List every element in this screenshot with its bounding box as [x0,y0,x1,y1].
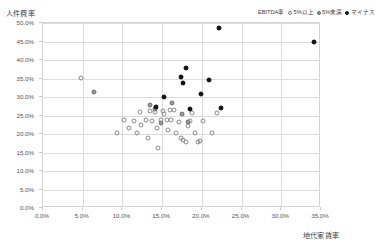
gridline-horizontal [43,97,319,98]
y-axis-tick-mark [39,133,42,134]
data-point [92,90,97,95]
data-point [78,75,83,80]
x-axis-tick-mark [320,207,321,210]
data-point [174,131,179,136]
gridline-horizontal [43,60,319,61]
data-point [218,105,223,110]
data-point [153,105,158,110]
data-point [162,111,167,116]
data-point [183,66,188,71]
gridline-vertical [242,23,243,206]
data-point [155,146,160,151]
y-axis-tick-label: 25.0% [0,111,38,118]
x-axis-tick-label: 35.0% [300,212,340,219]
data-point [170,101,175,106]
x-axis-title: 地代家賃率 [303,230,339,240]
gridline-horizontal [43,190,319,191]
x-axis-tick-label: 5.0% [62,212,102,219]
y-axis-tick-mark [39,41,42,42]
gridline-horizontal [43,42,319,43]
gridline-vertical [122,23,123,206]
legend-title: EBITDA率 [258,10,284,16]
data-point [183,139,188,144]
data-point [126,125,131,130]
gridline-vertical [202,23,203,206]
x-axis-tick-label: 10.0% [101,212,141,219]
data-point [198,139,203,144]
data-point [214,110,219,115]
data-point [159,120,164,125]
data-point [179,75,184,80]
data-point [206,78,211,83]
data-point [311,39,316,44]
data-point [144,117,149,122]
data-point [217,25,222,30]
y-axis-tick-label: 0.0% [0,204,38,211]
y-axis-tick-label: 20.0% [0,130,38,137]
data-point [148,102,153,107]
y-axis-tick-mark [39,96,42,97]
y-axis-tick-mark [39,115,42,116]
data-point [193,131,198,136]
y-axis-tick-label: 50.0% [0,19,38,26]
y-axis-tick-mark [39,22,42,23]
data-point [201,119,206,124]
x-axis-tick-mark [201,207,202,210]
data-point [186,120,191,125]
y-axis-tick-mark [39,59,42,60]
data-point [132,118,137,123]
data-point [161,94,166,99]
data-point [155,125,160,130]
legend-item-under-5pct: 5%未満 [317,10,342,16]
legend-label: 5%未満 [322,10,342,16]
data-point [150,118,155,123]
x-axis-tick-mark [121,207,122,210]
filled-black-circle-icon [345,11,349,15]
data-point [146,136,151,141]
chart-legend: EBITDA率 5%以上 5%未満 マイナス [258,10,375,16]
legend-label: 5%以上 [294,10,314,16]
filled-gray-circle-icon [317,11,321,15]
gridline-horizontal [43,23,319,24]
x-axis-tick-mark [280,207,281,210]
data-point [139,122,144,127]
legend-label: マイナス [351,10,375,16]
data-point [180,80,185,85]
data-point [171,108,176,113]
y-axis-title: 人件費率 [6,8,35,18]
y-axis-tick-mark [39,78,42,79]
gridline-vertical [83,23,84,206]
data-point [166,128,171,133]
gridline-horizontal [43,171,319,172]
gridline-horizontal [43,153,319,154]
x-axis-tick-mark [161,207,162,210]
x-axis-tick-mark [241,207,242,210]
y-axis-tick-label: 10.0% [0,167,38,174]
gridline-vertical [281,23,282,206]
x-axis-tick-label: 30.0% [260,212,300,219]
data-point [209,131,214,136]
y-axis-tick-label: 35.0% [0,74,38,81]
y-axis-tick-label: 40.0% [0,56,38,63]
data-point [134,131,139,136]
data-point [137,110,142,115]
y-axis-tick-label: 15.0% [0,148,38,155]
y-axis-tick-mark [39,152,42,153]
legend-item-5pct-or-more: 5%以上 [288,10,313,16]
y-axis-tick-label: 30.0% [0,93,38,100]
legend-item-negative: マイナス [345,10,374,16]
open-circle-icon [288,11,292,15]
data-point [198,91,203,96]
data-point [115,130,120,135]
data-point [187,106,192,111]
x-axis-tick-mark [42,207,43,210]
x-axis-tick-label: 15.0% [141,212,181,219]
y-axis-tick-label: 45.0% [0,37,38,44]
data-point [176,119,181,124]
y-axis-tick-mark [39,189,42,190]
data-point [179,111,184,116]
x-axis-tick-label: 20.0% [181,212,221,219]
x-axis-tick-label: 0.0% [22,212,62,219]
data-point [121,117,126,122]
